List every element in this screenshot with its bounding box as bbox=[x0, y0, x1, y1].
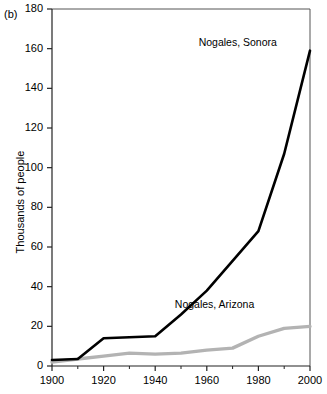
y-tick-label: 180 bbox=[0, 3, 43, 14]
series-lines bbox=[52, 51, 310, 362]
y-tick-label: 140 bbox=[0, 82, 43, 93]
x-tick-label: 1960 bbox=[187, 375, 227, 386]
series-label: Nogales, Arizona bbox=[175, 299, 254, 310]
x-tick-label: 1940 bbox=[135, 375, 175, 386]
y-tick-label: 60 bbox=[0, 241, 43, 252]
y-tick-label: 80 bbox=[0, 201, 43, 212]
x-tick-label: 2000 bbox=[290, 375, 327, 386]
axes-frame bbox=[52, 9, 310, 366]
y-tick-label: 120 bbox=[0, 122, 43, 133]
x-tick-label: 1980 bbox=[238, 375, 278, 386]
y-tick-label: 20 bbox=[0, 320, 43, 331]
series-label: Nogales, Sonora bbox=[199, 37, 277, 48]
y-tick-label: 40 bbox=[0, 281, 43, 292]
y-tick-label: 160 bbox=[0, 43, 43, 54]
y-tick-label: 100 bbox=[0, 162, 43, 173]
x-axis-ticks bbox=[52, 366, 310, 371]
x-tick-label: 1920 bbox=[84, 375, 124, 386]
x-tick-label: 1900 bbox=[32, 375, 72, 386]
y-tick-label: 0 bbox=[0, 360, 43, 371]
y-axis-ticks bbox=[47, 9, 52, 366]
